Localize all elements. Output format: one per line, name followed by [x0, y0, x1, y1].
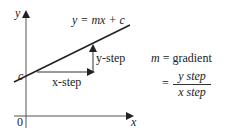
gradient-fraction: y step x step: [173, 70, 211, 99]
y-axis-label: y: [15, 7, 20, 19]
x-step-label: x-step: [52, 76, 81, 88]
gradient-definition: m = gradient: [151, 52, 212, 64]
fraction-denominator: x step: [178, 86, 206, 99]
equals-sign: =: [162, 77, 169, 89]
y-step-label: y-step: [96, 52, 125, 64]
line-equation-label: y = mx + c: [72, 14, 125, 26]
fraction-numerator: y step: [178, 70, 206, 83]
origin-label: 0: [17, 116, 23, 128]
x-axis-label: x: [131, 116, 136, 128]
gradient-word: = gradient: [163, 51, 212, 65]
intercept-label: c: [18, 70, 23, 82]
gradient-symbol: m: [151, 51, 160, 65]
